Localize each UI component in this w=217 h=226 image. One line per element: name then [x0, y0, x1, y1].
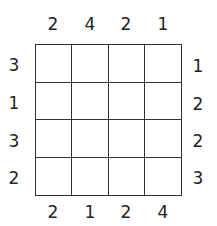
- bottom-clue: 2: [43, 202, 63, 222]
- grid-cell[interactable]: [72, 120, 108, 158]
- grid-cell[interactable]: [72, 83, 108, 121]
- grid-cell[interactable]: [145, 83, 181, 121]
- grid-cell[interactable]: [36, 158, 72, 196]
- top-clue: 1: [153, 14, 173, 34]
- left-clue: 3: [4, 55, 24, 75]
- grid-cell[interactable]: [145, 120, 181, 158]
- left-clue: 3: [4, 131, 24, 151]
- grid-cell[interactable]: [72, 45, 108, 83]
- grid-cell[interactable]: [145, 158, 181, 196]
- bottom-clue: 2: [116, 202, 136, 222]
- grid-cell[interactable]: [145, 45, 181, 83]
- right-clue: 1: [188, 56, 208, 76]
- left-clue: 2: [4, 168, 24, 188]
- grid-cell[interactable]: [36, 83, 72, 121]
- grid-cell[interactable]: [36, 120, 72, 158]
- grid-cell[interactable]: [109, 45, 145, 83]
- right-clue: 2: [188, 131, 208, 151]
- top-clue: 4: [80, 14, 100, 34]
- grid-cell[interactable]: [109, 120, 145, 158]
- top-clue: 2: [43, 14, 63, 34]
- bottom-clue: 4: [153, 202, 173, 222]
- right-clue: 2: [188, 94, 208, 114]
- grid-cell[interactable]: [109, 83, 145, 121]
- grid-cell[interactable]: [36, 45, 72, 83]
- skyscraper-grid: [35, 44, 182, 196]
- bottom-clue: 1: [80, 202, 100, 222]
- left-clue: 1: [4, 93, 24, 113]
- grid-cell[interactable]: [109, 158, 145, 196]
- top-clue: 2: [116, 14, 136, 34]
- right-clue: 3: [188, 168, 208, 188]
- grid-cell[interactable]: [72, 158, 108, 196]
